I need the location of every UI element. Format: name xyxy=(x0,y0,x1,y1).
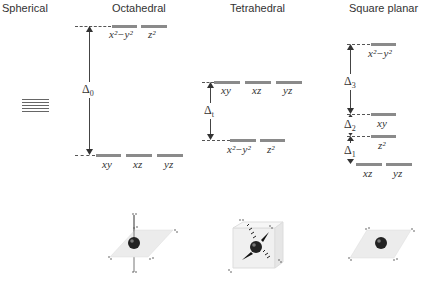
orbital-label-yz: yz xyxy=(164,158,173,170)
arrow-up-icon xyxy=(347,136,354,141)
octahedral-upper-dash xyxy=(75,26,111,27)
delta-o-label: Δ0 xyxy=(82,82,94,98)
orbital-bar-z2 xyxy=(260,139,285,142)
tetrahedral-lower-dash xyxy=(202,140,230,141)
arrow-up-icon xyxy=(86,26,93,32)
orbital-bar-x2-y2 xyxy=(371,43,396,46)
orbital-label-x2-y2: x²−y² xyxy=(227,143,251,155)
degenerate-line xyxy=(22,102,49,103)
orbital-label-xy: xy xyxy=(221,84,231,96)
delta-t-label: Δt xyxy=(204,103,214,119)
delta-1-label: Δ1 xyxy=(344,143,356,159)
orbital-bar-x2-y2 xyxy=(230,139,256,142)
title-octahedral: Octahedral xyxy=(112,2,166,14)
square-planar-geometry-icon xyxy=(345,224,415,264)
degenerate-line xyxy=(22,99,49,100)
octahedral-geometry-icon xyxy=(95,210,195,280)
orbital-bar-yz xyxy=(157,154,183,157)
title-spherical: Spherical xyxy=(2,2,48,14)
orbital-bar-z2 xyxy=(371,135,396,138)
title-tetrahedral: Tetrahedral xyxy=(230,2,285,14)
orbital-label-xz: xz xyxy=(363,167,372,179)
orbital-label-z2: z² xyxy=(378,139,386,151)
arrow-up-icon xyxy=(207,82,214,88)
orbital-bar-xy xyxy=(96,154,121,157)
delta-3-label: Δ3 xyxy=(344,74,356,90)
orbital-label-xy: xy xyxy=(377,117,387,129)
orbital-label-z2: z² xyxy=(148,28,156,40)
arrow-down-icon xyxy=(347,159,354,164)
orbital-label-xz: xz xyxy=(133,158,142,170)
orbital-bar-xz xyxy=(126,154,152,157)
degenerate-line xyxy=(22,108,49,109)
orbital-bar-yz xyxy=(386,163,412,166)
degenerate-line xyxy=(22,111,49,112)
orbital-label-x2-y2: x²−y² xyxy=(368,47,392,59)
arrow-up-icon xyxy=(347,44,354,50)
orbital-label-yz: yz xyxy=(283,84,292,96)
orbital-label-z2: z² xyxy=(267,143,275,155)
degenerate-line xyxy=(22,105,49,106)
orbital-label-xz: xz xyxy=(252,84,261,96)
orbital-bar-xz xyxy=(356,163,382,166)
orbital-bar-xy xyxy=(371,113,396,116)
orbital-label-xy: xy xyxy=(102,158,112,170)
orbital-label-x2-y2: x²−y² xyxy=(109,28,133,40)
title-square-planar: Square planar xyxy=(349,2,418,14)
orbital-label-yz: yz xyxy=(393,167,402,179)
delta-2-label: Δ2 xyxy=(344,117,356,133)
octahedral-lower-dash xyxy=(75,155,95,156)
tetrahedral-geometry-icon xyxy=(225,218,295,278)
